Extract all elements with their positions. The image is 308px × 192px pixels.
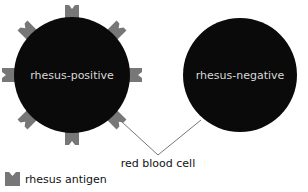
callout-line (122, 120, 201, 155)
rhesus-antigen-icon (2, 68, 16, 82)
rhesus-antigen-icon (65, 131, 79, 145)
rhesus-diagram: rhesus-positive rhesus-negative red bloo… (0, 0, 308, 192)
legend: rhesus antigen (5, 172, 107, 186)
rhesus-antigen-icon (65, 5, 79, 19)
red-blood-cell-label: red blood cell (121, 157, 195, 170)
rhesus-negative-label: rhesus-negative (196, 69, 285, 82)
rhesus-antigen-icon (128, 68, 142, 82)
rhesus-positive-label: rhesus-positive (30, 69, 114, 82)
rhesus-antigen-icon (5, 172, 20, 186)
legend-label: rhesus antigen (25, 173, 107, 186)
